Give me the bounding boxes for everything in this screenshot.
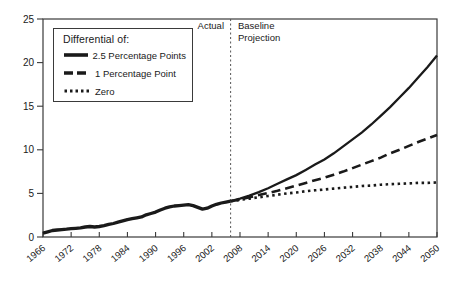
y-tick-label: 20 (23, 57, 35, 68)
legend-label-solid: 2.5 Percentage Points (93, 50, 186, 61)
x-tick-label: 2032 (334, 242, 357, 264)
dashed-line-icon (63, 69, 90, 77)
legend-item-solid: 2.5 Percentage Points (63, 46, 186, 64)
legend-label-dotted: Zero (95, 86, 115, 97)
legend-title: Differential of: (63, 33, 186, 45)
x-tick-label: 2008 (221, 242, 244, 264)
dotted-line-icon (63, 87, 90, 95)
solid-line-icon (63, 51, 88, 59)
x-tick-label: 2038 (362, 242, 385, 264)
x-tick-label: 2044 (390, 242, 413, 264)
x-tick-label: 1966 (24, 242, 47, 264)
legend: Differential of: 2.5 Percentage Points 1… (53, 28, 193, 102)
x-tick-label: 1990 (137, 242, 160, 264)
chart: 0510152025196619721978198419901996200220… (0, 0, 456, 282)
y-tick-label: 10 (23, 144, 35, 155)
legend-item-dashed: 1 Percentage Point (63, 64, 186, 82)
baseline-projection-label: Baseline Projection (238, 20, 280, 43)
x-tick-label: 2050 (418, 242, 441, 264)
legend-label-dashed: 1 Percentage Point (95, 68, 176, 79)
x-tick-label: 1978 (80, 242, 103, 264)
x-tick-label: 2014 (249, 242, 272, 264)
actual-period-label: Actual (150, 20, 224, 32)
x-tick-label: 2002 (193, 242, 216, 264)
x-tick-label: 1984 (108, 242, 131, 264)
y-tick-label: 15 (23, 101, 35, 112)
projection-line-solid (231, 56, 437, 202)
x-tick-label: 2026 (305, 242, 328, 264)
legend-item-dotted: Zero (63, 82, 186, 100)
y-tick-label: 0 (28, 232, 34, 243)
x-tick-label: 2020 (277, 242, 300, 264)
y-tick-label: 25 (23, 14, 35, 25)
x-tick-label: 1996 (165, 242, 188, 264)
history-line (43, 201, 231, 233)
x-tick-label: 1972 (52, 242, 75, 264)
y-tick-label: 5 (28, 188, 34, 199)
